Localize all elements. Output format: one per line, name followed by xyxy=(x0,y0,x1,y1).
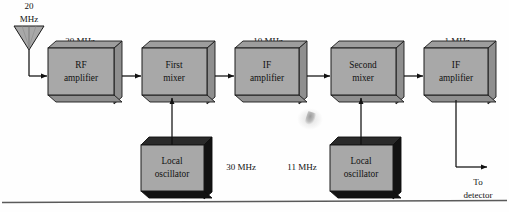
block-label-rf-amplifier-line2: amplifier xyxy=(64,73,99,83)
block-label-second-mixer-line1: Second xyxy=(349,60,377,70)
block-label-local-oscillator-1-line2: oscillator xyxy=(155,169,190,179)
freq-label-local-oscillator-2: 11 MHz xyxy=(287,162,316,172)
block-label-if-amplifier-1-line1: IF xyxy=(263,60,271,70)
freq-label-local-oscillator-1: 30 MHz xyxy=(226,162,256,172)
page-background xyxy=(0,0,509,212)
block-label-rf-amplifier-line1: RF xyxy=(75,60,86,70)
block-if-amplifier-1[interactable]: IF amplifier xyxy=(235,41,307,104)
output-label-line1: To xyxy=(473,177,483,187)
block-local-oscillator-1[interactable]: Local oscillator xyxy=(141,137,212,199)
block-label-first-mixer-line1: First xyxy=(165,60,182,70)
block-label-first-mixer-line2: mixer xyxy=(163,73,186,83)
block-diagram: 20 MHz 20 MHz RF amplifier First mixer 1… xyxy=(0,0,509,212)
block-label-local-oscillator-1-line1: Local xyxy=(161,156,183,166)
block-label-if-amplifier-1-line2: amplifier xyxy=(250,73,285,83)
block-local-oscillator-2[interactable]: Local oscillator xyxy=(330,137,401,199)
block-first-mixer[interactable]: First mixer xyxy=(142,41,215,104)
block-label-if-amplifier-2-line1: IF xyxy=(452,60,460,70)
block-if-amplifier-2[interactable]: IF amplifier xyxy=(424,41,496,104)
output-label-line2: detector xyxy=(464,190,493,200)
block-rf-amplifier[interactable]: RF amplifier xyxy=(48,41,122,104)
block-label-local-oscillator-2-line1: Local xyxy=(350,156,372,166)
antenna-label-line2: MHz xyxy=(20,14,39,24)
block-label-second-mixer-line2: mixer xyxy=(352,73,375,83)
block-second-mixer[interactable]: Second mixer xyxy=(331,41,404,104)
antenna-label-line1: 20 xyxy=(25,1,35,11)
block-label-local-oscillator-2-line2: oscillator xyxy=(344,169,379,179)
block-label-if-amplifier-2-line2: amplifier xyxy=(439,73,474,83)
figure-canvas: 20 MHz 20 MHz RF amplifier First mixer 1… xyxy=(0,0,509,212)
